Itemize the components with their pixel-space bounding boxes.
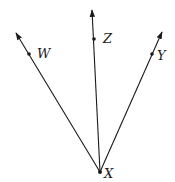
point-z: [92, 37, 96, 41]
point-y: [150, 52, 154, 56]
point-label-y: Y: [157, 48, 167, 63]
vertex-label-x: X: [103, 166, 114, 181]
point-label-w: W: [37, 46, 52, 61]
ray-xz: [92, 10, 100, 172]
vertex-point-x: [98, 170, 102, 174]
point-w: [27, 52, 31, 56]
rays-diagram: WZY X: [0, 0, 175, 182]
point-label-z: Z: [102, 31, 113, 46]
